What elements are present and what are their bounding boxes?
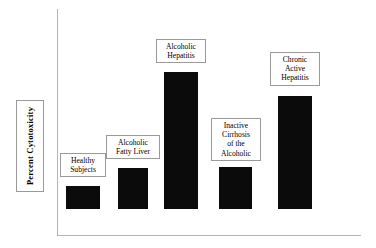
bar-label-line: Healthy: [64, 156, 102, 165]
y-axis-title-box: Percent Cytotoxicity: [16, 100, 44, 192]
bar-label-line: Alcoholic: [110, 138, 156, 147]
bar-label-line: Active: [274, 64, 316, 73]
bar-label-line: Hepatitis: [160, 51, 202, 60]
bar-label-line: Cirrhosis: [215, 130, 257, 139]
bar-label-line: Subjects: [64, 165, 102, 174]
bar-label-line: Fatty Liver: [110, 147, 156, 156]
bar: [278, 96, 312, 209]
bar-label: AlcoholicFatty Liver: [106, 135, 160, 159]
bar-label-line: Alcoholic: [160, 42, 202, 51]
bar-label: ChronicActiveHepatitis: [270, 52, 320, 86]
bar: [66, 186, 100, 209]
bar-label-line: Inactive: [215, 121, 257, 130]
bar-label-line: Hepatitis: [274, 73, 316, 82]
bar: [164, 72, 198, 209]
y-axis-title: Percent Cytotoxicity: [26, 107, 35, 185]
bar-label-line: Chronic: [274, 55, 316, 64]
bar-label: InactiveCirrhosisof theAlcoholic: [211, 118, 261, 161]
bar-label: HealthySubjects: [60, 153, 106, 177]
bar: [219, 167, 252, 209]
bar-chart: Percent Cytotoxicity HealthySubjectsAlco…: [0, 0, 376, 248]
bar-label: AlcoholicHepatitis: [156, 39, 206, 63]
x-axis-line: [57, 235, 361, 236]
bar-label-line: Alcoholic: [215, 149, 257, 158]
bar: [118, 168, 148, 209]
y-axis-line: [57, 9, 58, 236]
bar-label-line: of the: [215, 139, 257, 148]
